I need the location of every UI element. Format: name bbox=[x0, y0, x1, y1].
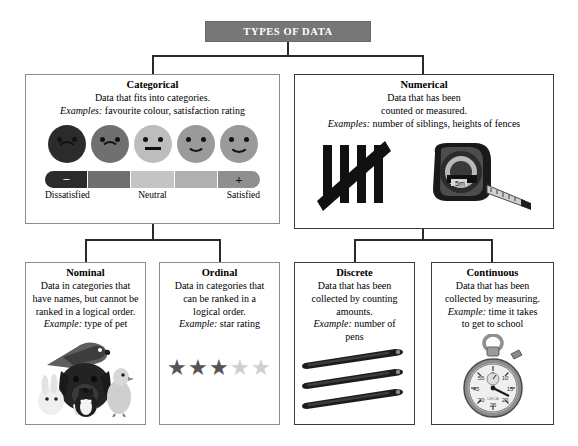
nominal-line2: have names, but cannot be bbox=[26, 293, 145, 306]
satisfaction-segment-4 bbox=[175, 171, 218, 188]
connector-categorical-stem bbox=[152, 224, 154, 240]
face-neutral-icon bbox=[134, 125, 172, 163]
nominal-heading: Nominal bbox=[26, 267, 145, 279]
box-categorical: Categorical Data that fits into categori… bbox=[25, 74, 280, 224]
box-discrete: Discrete Data that has been collected by… bbox=[294, 262, 415, 425]
continuous-example-label: Example: bbox=[448, 306, 486, 317]
mouth-smile bbox=[228, 139, 249, 153]
eye-left bbox=[100, 137, 105, 142]
tally-marks-icon bbox=[317, 139, 395, 211]
connector-to-categorical bbox=[152, 55, 154, 74]
svg-text:20: 20 bbox=[501, 397, 508, 403]
connector-to-discrete bbox=[354, 239, 356, 262]
diagram-title-box: TYPES OF DATA bbox=[205, 21, 371, 42]
eye-right bbox=[158, 137, 163, 142]
nominal-example: Example: type of pet bbox=[26, 318, 145, 331]
eye-right bbox=[115, 137, 120, 142]
discrete-illustration-wrap bbox=[295, 347, 414, 409]
label-dissatisfied: Dissatisfied bbox=[45, 190, 117, 200]
box-nominal: Nominal Data in categories that have nam… bbox=[25, 262, 146, 425]
box-continuous: Continuous Data that has been collected … bbox=[431, 262, 554, 425]
stopwatch-photo: 5 10 15 20 25 30 45 55 LEICA bbox=[453, 334, 533, 418]
face-very-dissatisfied-icon bbox=[48, 125, 86, 163]
svg-text:45: 45 bbox=[472, 386, 479, 392]
continuous-line2: collected by measuring. bbox=[432, 293, 553, 306]
ordinal-example: Example: star rating bbox=[160, 318, 279, 331]
mouth-smile bbox=[186, 140, 205, 152]
eye-left bbox=[143, 137, 148, 142]
nominal-example-text: type of pet bbox=[85, 318, 128, 329]
discrete-example-text2: pens bbox=[295, 331, 414, 344]
satisfaction-bar-labels: Dissatisfied Neutral Satisfied bbox=[45, 190, 260, 200]
face-very-satisfied-icon bbox=[220, 125, 258, 163]
categorical-examples-label: Examples: bbox=[60, 105, 102, 116]
pens-photo bbox=[299, 347, 411, 409]
nominal-example-label: Example: bbox=[44, 318, 82, 329]
categorical-examples-text: favourite colour, satisfaction rating bbox=[105, 105, 245, 116]
discrete-heading: Discrete bbox=[295, 267, 414, 279]
svg-text:55: 55 bbox=[477, 375, 484, 381]
connector-level1-bus bbox=[152, 55, 423, 57]
ordinal-example-label: Example: bbox=[179, 318, 217, 329]
mouth-frown bbox=[56, 141, 77, 155]
tape-measure-icon: 5m bbox=[421, 139, 531, 211]
satisfaction-segment-3 bbox=[131, 171, 174, 188]
continuous-heading: Continuous bbox=[432, 267, 553, 279]
box-ordinal: Ordinal Data in categories that can be r… bbox=[159, 262, 280, 425]
satisfaction-segment-1: − bbox=[45, 171, 88, 188]
star-filled-1-icon: ★ bbox=[167, 355, 188, 380]
ordinal-example-text: star rating bbox=[220, 318, 260, 329]
nominal-line3: ranked in a logical order. bbox=[26, 306, 145, 319]
svg-text:5m: 5m bbox=[455, 180, 465, 187]
satisfaction-segment-2 bbox=[88, 171, 131, 188]
svg-text:LEICA: LEICA bbox=[487, 396, 499, 401]
nominal-line1: Data in categories that bbox=[26, 280, 145, 293]
plus-sign: + bbox=[235, 173, 242, 186]
pets-photo bbox=[33, 335, 139, 417]
satisfaction-bar: − + bbox=[45, 171, 260, 188]
diagram-canvas: TYPES OF DATA Categorical Data that fits… bbox=[0, 0, 578, 446]
connector-to-nominal bbox=[85, 239, 87, 262]
ordinal-heading: Ordinal bbox=[160, 267, 279, 279]
nominal-illustration-wrap bbox=[26, 335, 145, 417]
svg-text:30: 30 bbox=[477, 397, 484, 403]
eye-right bbox=[72, 137, 77, 142]
continuous-example: Example: time it takes bbox=[432, 306, 553, 319]
star-filled-3-icon: ★ bbox=[209, 355, 230, 380]
discrete-line3: amounts. bbox=[295, 306, 414, 319]
satisfaction-face-scale bbox=[26, 125, 279, 163]
numerical-line1: Data that has been bbox=[295, 92, 553, 105]
numerical-examples-label: Examples: bbox=[328, 118, 370, 129]
connector-level2-right-bus bbox=[354, 239, 492, 241]
connector-level2-left-bus bbox=[85, 239, 220, 241]
discrete-line1: Data that has been bbox=[295, 280, 414, 293]
label-neutral: Neutral bbox=[117, 190, 189, 200]
svg-text:15: 15 bbox=[506, 386, 513, 392]
numerical-examples: Examples: number of siblings, heights of… bbox=[295, 118, 553, 131]
categorical-examples: Examples: favourite colour, satisfaction… bbox=[26, 105, 279, 118]
star-empty-5-icon: ★ bbox=[251, 355, 272, 380]
connector-to-ordinal bbox=[219, 239, 221, 262]
satisfaction-bar-wrap: − + bbox=[26, 171, 279, 188]
discrete-line2: collected by counting bbox=[295, 293, 414, 306]
face-satisfied-icon bbox=[177, 125, 215, 163]
continuous-example-text2: to get to school bbox=[432, 318, 553, 331]
label-satisfied: Satisfied bbox=[188, 190, 260, 200]
numerical-illustrations: 5m bbox=[295, 136, 553, 214]
connector-to-numerical bbox=[422, 55, 424, 74]
ordinal-line2: can be ranked in a bbox=[160, 293, 279, 306]
satisfaction-segment-5: + bbox=[218, 171, 260, 188]
star-empty-4-icon: ★ bbox=[230, 355, 251, 380]
connector-to-continuous bbox=[491, 239, 493, 262]
svg-text:10: 10 bbox=[501, 375, 508, 381]
eye-left bbox=[57, 137, 62, 142]
numerical-heading: Numerical bbox=[295, 79, 553, 91]
discrete-example: Example: number of bbox=[295, 318, 414, 331]
discrete-example-label: Example: bbox=[313, 318, 351, 329]
categorical-heading: Categorical bbox=[26, 79, 279, 91]
diagram-title-label: TYPES OF DATA bbox=[243, 26, 332, 37]
box-numerical: Numerical Data that has been counted or … bbox=[294, 74, 554, 229]
mouth-frown bbox=[100, 141, 119, 153]
star-rating: ★★★★★ bbox=[160, 357, 279, 379]
numerical-line2: counted or measured. bbox=[295, 105, 553, 118]
